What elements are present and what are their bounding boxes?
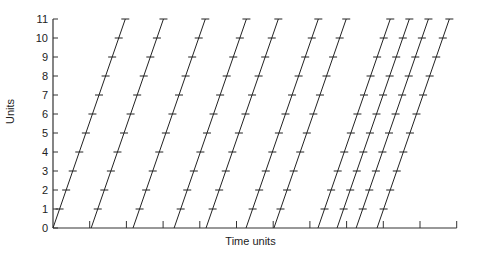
y-tick-label: 11	[37, 13, 48, 25]
y-axis-label: Units	[4, 99, 16, 124]
series-line	[133, 19, 205, 228]
y-tick-label: 3	[42, 165, 48, 177]
y-tick-label: 4	[42, 146, 48, 158]
y-tick-label: 0	[42, 222, 48, 234]
y-tick-label: 7	[42, 89, 48, 101]
series-line	[337, 19, 409, 228]
series-line	[356, 19, 428, 228]
y-tick-label: 1	[42, 203, 48, 215]
series-line	[246, 19, 318, 228]
y-tick-label: 6	[42, 108, 48, 120]
y-tick-label: 5	[42, 127, 48, 139]
y-tick-label: 8	[42, 70, 48, 82]
y-tick-label: 9	[42, 51, 48, 63]
series-line	[318, 19, 390, 228]
y-tick-label: 2	[42, 184, 48, 196]
series-line	[274, 19, 346, 228]
series-line	[53, 19, 125, 228]
series-line	[174, 19, 246, 228]
chart-plot: 01234567891011	[0, 0, 479, 253]
series-line	[377, 19, 449, 228]
series-line	[91, 19, 163, 228]
series-line	[206, 19, 278, 228]
x-axis-label: Time units	[0, 235, 479, 247]
y-tick-label: 10	[36, 32, 48, 44]
